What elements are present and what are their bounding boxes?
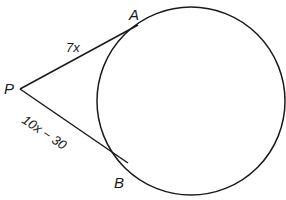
segment-pa — [20, 25, 138, 89]
point-a-label: A — [128, 6, 139, 23]
tangent-diagram: P A B 7x 10x − 30 — [0, 0, 286, 200]
segment-pa-label: 7x — [66, 40, 80, 55]
point-p-label: P — [4, 80, 14, 97]
point-b-label: B — [114, 174, 124, 191]
circle — [97, 7, 285, 195]
